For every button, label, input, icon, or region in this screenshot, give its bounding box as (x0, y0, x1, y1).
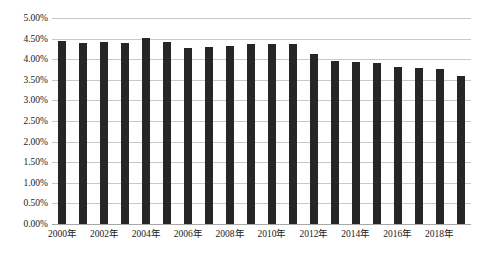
bar (121, 43, 129, 224)
x-axis-tick-label: 2002年 (81, 228, 127, 240)
y-axis-tick-label: 1.50% (0, 157, 48, 167)
bar (373, 63, 381, 225)
bar (457, 76, 465, 224)
bar-chart: 5.00%4.50%4.00%3.50%3.00%2.50%2.00%1.50%… (0, 0, 479, 262)
bar (268, 44, 276, 224)
bar (394, 67, 402, 224)
y-axis-tick-label: 4.50% (0, 34, 48, 44)
y-axis: 5.00%4.50%4.00%3.50%3.00%2.50%2.00%1.50%… (0, 0, 48, 262)
bar (415, 68, 423, 224)
x-axis-tick-label: 2004年 (123, 228, 169, 240)
bar (142, 38, 150, 224)
y-axis-tick-label: 5.00% (0, 13, 48, 23)
y-axis-tick-label: 1.00% (0, 178, 48, 188)
bar (163, 42, 171, 224)
bar-series (52, 18, 471, 224)
y-axis-tick-label: 3.50% (0, 75, 48, 85)
y-axis-tick-label: 2.00% (0, 137, 48, 147)
bar (331, 61, 339, 224)
gridline (52, 224, 471, 225)
x-axis-tick-label: 2018年 (417, 228, 463, 240)
x-axis-tick-label: 2014年 (333, 228, 379, 240)
x-axis-tick-label: 2000年 (39, 228, 85, 240)
bar (352, 62, 360, 224)
bar (205, 47, 213, 224)
y-axis-tick-label: 3.00% (0, 95, 48, 105)
y-axis-tick-label: 2.50% (0, 116, 48, 126)
bar (100, 42, 108, 224)
y-axis-tick-label: 0.50% (0, 198, 48, 208)
bar (436, 69, 444, 224)
y-axis-tick-label: 4.00% (0, 54, 48, 64)
bar (247, 44, 255, 224)
bar (184, 48, 192, 224)
x-axis-tick-label: 2016年 (375, 228, 421, 240)
x-axis-tick-label: 2006年 (165, 228, 211, 240)
bar (310, 54, 318, 224)
x-axis-tick-label: 2010年 (249, 228, 295, 240)
x-axis-tick-label: 2008年 (207, 228, 253, 240)
bar (79, 43, 87, 224)
x-axis-tick-label: 2012年 (291, 228, 337, 240)
bar (226, 46, 234, 224)
bar (289, 44, 297, 224)
bar (58, 41, 66, 224)
x-axis: 2000年2002年2004年2006年2008年2010年2012年2014年… (52, 228, 471, 252)
